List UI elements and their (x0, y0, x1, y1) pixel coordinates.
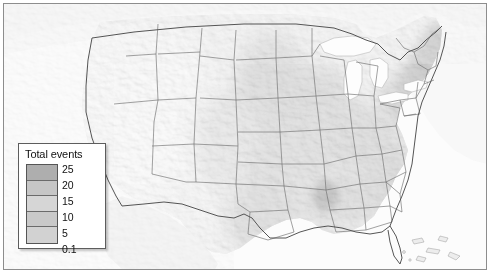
legend-body: 25 20 15 10 5 0.1 (26, 164, 100, 244)
legend-swatch-15 (27, 196, 57, 212)
legend-tick-20: 20 (62, 180, 74, 190)
figure-container: Total events 25 20 15 10 5 0.1 (0, 0, 491, 274)
legend-box: Total events 25 20 15 10 5 0.1 (18, 143, 106, 249)
legend-swatch-5 (27, 227, 57, 243)
legend-swatch-20 (27, 181, 57, 197)
legend-tick-15: 15 (62, 196, 74, 206)
legend-tick-0-1: 0.1 (62, 244, 77, 254)
legend-swatch-25 (27, 165, 57, 181)
legend-tick-25: 25 (62, 164, 74, 174)
legend-tick-column: 25 20 15 10 5 0.1 (62, 157, 100, 251)
legend-swatch-column (26, 164, 58, 244)
map-frame: Total events 25 20 15 10 5 0.1 (3, 3, 487, 270)
legend-swatch-10 (27, 212, 57, 228)
legend-tick-10: 10 (62, 212, 74, 222)
legend-tick-5: 5 (62, 228, 68, 238)
